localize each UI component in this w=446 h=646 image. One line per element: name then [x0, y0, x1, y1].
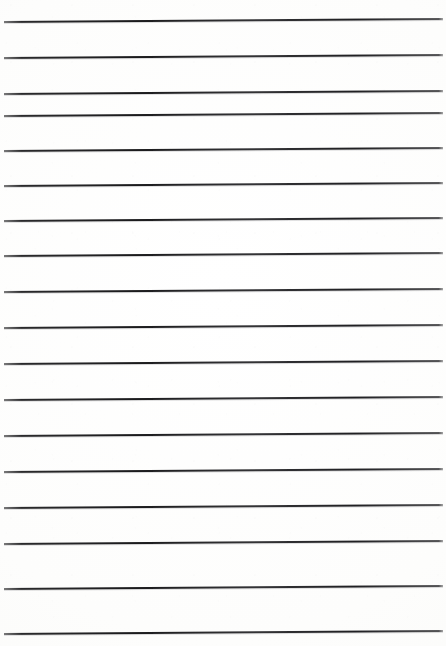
ruled-line — [4, 18, 443, 23]
ruled-line — [4, 252, 443, 257]
ruled-line — [4, 90, 443, 95]
ruled-line — [4, 112, 443, 117]
ruled-line — [4, 540, 443, 545]
ruled-line-group — [0, 0, 446, 646]
ruled-line — [4, 217, 443, 222]
ruled-line — [4, 147, 443, 152]
ruled-line — [4, 432, 443, 437]
ruled-line — [4, 54, 443, 59]
ruled-line — [4, 324, 443, 329]
ruled-line — [4, 585, 443, 590]
ruled-line — [4, 288, 443, 293]
scanned-page — [0, 0, 446, 646]
ruled-line — [4, 396, 443, 401]
ruled-line — [4, 468, 443, 473]
ruled-line — [4, 504, 443, 509]
ruled-line — [4, 360, 443, 365]
ruled-line — [4, 182, 443, 187]
ruled-line — [4, 630, 443, 635]
